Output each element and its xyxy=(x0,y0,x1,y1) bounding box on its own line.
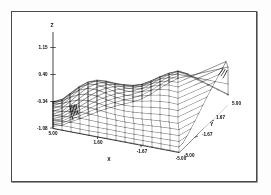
surface-body-fill xyxy=(53,52,228,152)
y-tick-label-0: 5.00 xyxy=(232,101,241,106)
plot-frame: Z 1.15 0.40 -0.34 -1.08 X 5.00 1.60 -1.6… xyxy=(11,11,257,182)
y-axis-title: Y xyxy=(210,121,214,127)
y-tick-label-1: 1.67 xyxy=(216,115,225,120)
z-axis-title: Z xyxy=(50,22,53,28)
y-tick-label-3: -5.00 xyxy=(184,153,195,158)
plot-canvas: Z 1.15 0.40 -0.34 -1.08 X 5.00 1.60 -1.6… xyxy=(12,12,258,183)
z-tick-label-3: -1.08 xyxy=(37,126,48,131)
surface-plot-svg: Z 1.15 0.40 -0.34 -1.08 X 5.00 1.60 -1.6… xyxy=(12,12,258,183)
x-axis-title: X xyxy=(107,156,111,162)
x-tick-label-1: 1.60 xyxy=(94,140,103,145)
z-tick-label-2: -0.34 xyxy=(37,99,48,104)
y-tick-label-2: -1.67 xyxy=(202,132,213,137)
x-tick-label-0: 5.00 xyxy=(49,131,58,136)
x-tick-label-2: -1.67 xyxy=(137,149,148,154)
z-tick-label-1: 0.40 xyxy=(39,72,48,77)
surface-mesh xyxy=(53,52,228,152)
figure-root: Z 1.15 0.40 -0.34 -1.08 X 5.00 1.60 -1.6… xyxy=(0,0,271,195)
z-tick-label-0: 1.15 xyxy=(39,45,48,50)
